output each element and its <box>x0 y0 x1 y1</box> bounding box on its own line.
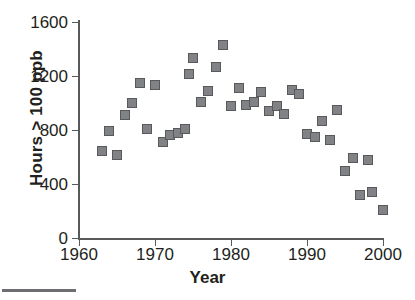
data-point-marker <box>142 124 152 134</box>
data-point-marker <box>150 80 160 90</box>
data-point-marker <box>184 69 194 79</box>
data-point-marker <box>249 97 259 107</box>
data-point-marker <box>256 87 266 97</box>
data-point-marker <box>332 105 342 115</box>
scatter-chart-figure: Hours > 100 ppb Year 040080012001600 196… <box>0 0 415 300</box>
data-point-marker <box>355 190 365 200</box>
data-point-marker <box>340 166 350 176</box>
data-point-marker <box>135 78 145 88</box>
data-point-marker <box>218 40 228 50</box>
data-point-marker <box>363 155 373 165</box>
data-point-marker <box>180 124 190 134</box>
data-point-marker <box>211 62 221 72</box>
data-point-marker <box>127 98 137 108</box>
data-point-marker <box>348 153 358 163</box>
data-point-marker <box>317 116 327 126</box>
data-point-marker <box>112 150 122 160</box>
data-point-marker <box>97 146 107 156</box>
data-point-marker <box>120 110 130 120</box>
data-point-marker <box>294 89 304 99</box>
plot-area <box>0 0 415 300</box>
data-point-marker <box>104 126 114 136</box>
footer-rule <box>2 289 76 292</box>
data-point-marker <box>367 187 377 197</box>
data-point-marker <box>196 97 206 107</box>
data-point-marker <box>325 135 335 145</box>
data-point-marker <box>310 132 320 142</box>
data-point-marker <box>279 109 289 119</box>
data-point-marker <box>203 86 213 96</box>
data-point-marker <box>234 83 244 93</box>
data-point-marker <box>188 53 198 63</box>
data-point-marker <box>226 101 236 111</box>
data-point-marker <box>378 205 388 215</box>
